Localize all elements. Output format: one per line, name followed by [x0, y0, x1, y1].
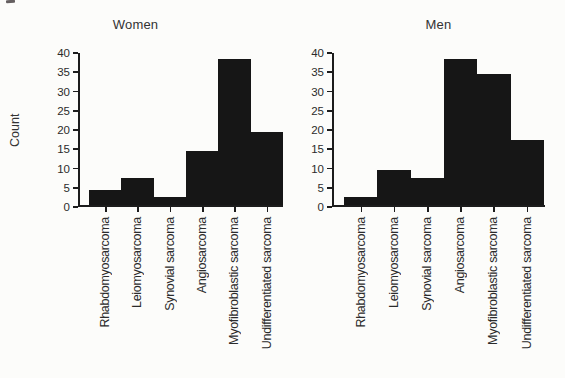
bar-angiosarcoma: [444, 59, 478, 205]
sarcoma-count-figure: Women Count 0510152025303540 Rhabdomyosa…: [0, 0, 565, 378]
y-tick: [73, 91, 78, 93]
x-tick: [202, 207, 204, 212]
bar-rhabdomyosarcoma: [344, 197, 378, 205]
x-tick: [361, 207, 363, 212]
x-category-label: Myofibroblastic sarcoma: [486, 217, 500, 345]
x-category-labels-women: RhabdomyosarcomaLeiomyosarcomaSynovial s…: [89, 217, 283, 369]
y-tick-label: 5: [298, 181, 324, 195]
y-tick: [327, 71, 332, 73]
y-tick-label: 40: [44, 46, 70, 60]
x-tick: [234, 207, 236, 212]
y-tick: [327, 91, 332, 93]
x-category-label: Angiosarcoma: [453, 217, 467, 293]
y-tick: [327, 168, 332, 170]
x-tick: [267, 207, 269, 212]
y-tick: [327, 206, 332, 208]
bar-undifferentiated-sarcoma: [510, 140, 544, 205]
y-tick-label: 25: [298, 104, 324, 118]
bar-angiosarcoma: [186, 151, 219, 205]
y-tick: [73, 129, 78, 131]
y-tick: [327, 110, 332, 112]
y-tick: [327, 52, 332, 54]
bar-leiomyosarcoma: [377, 170, 411, 205]
bar-synovial-sarcoma: [410, 178, 444, 205]
x-category-label: Myofibroblastic sarcoma: [227, 217, 241, 345]
plot-area-men: 0510152025303540: [332, 53, 545, 207]
x-category-label: Synovial sarcoma: [163, 217, 177, 311]
plot-area-women: 0510152025303540: [78, 53, 283, 207]
y-tick: [73, 206, 78, 208]
y-tick-label: 40: [298, 46, 324, 60]
x-category-label: Undifferentiated sarcoma: [260, 217, 274, 349]
x-category-label: Rhabdomyosarcoma: [354, 217, 368, 328]
bar-synovial-sarcoma: [154, 197, 187, 205]
y-tick-label: 35: [44, 65, 70, 79]
y-tick-label: 10: [298, 162, 324, 176]
y-tick-label: 30: [298, 85, 324, 99]
chart-title-men: Men: [332, 17, 545, 32]
bar-leiomyosarcoma: [121, 178, 154, 205]
chart-title-women: Women: [78, 17, 193, 32]
y-tick-label: 30: [44, 85, 70, 99]
x-tick: [527, 207, 529, 212]
x-tick: [137, 207, 139, 212]
y-tick-label: 15: [44, 142, 70, 156]
y-tick-label: 5: [44, 181, 70, 195]
x-category-label: Leiomyosarcoma: [387, 217, 401, 308]
x-tick: [170, 207, 172, 212]
y-tick-label: 0: [44, 200, 70, 214]
y-tick-label: 10: [44, 162, 70, 176]
y-tick-label: 0: [298, 200, 324, 214]
y-tick-label: 35: [298, 65, 324, 79]
y-tick: [73, 110, 78, 112]
scan-artifact: [6, 0, 15, 3]
bar-myofibroblastic-sarcoma: [218, 59, 251, 205]
x-category-label: Undifferentiated sarcoma: [520, 217, 534, 349]
y-tick-label: 20: [298, 123, 324, 137]
y-tick: [73, 168, 78, 170]
x-tick: [493, 207, 495, 212]
y-tick-label: 20: [44, 123, 70, 137]
y-tick-label: 25: [44, 104, 70, 118]
bar-myofibroblastic-sarcoma: [477, 74, 511, 205]
x-category-labels-men: RhabdomyosarcomaLeiomyosarcomaSynovial s…: [344, 217, 543, 369]
y-tick: [327, 129, 332, 131]
x-category-label: Rhabdomyosarcoma: [98, 217, 112, 328]
y-tick: [73, 52, 78, 54]
bar-undifferentiated-sarcoma: [251, 132, 284, 205]
y-axis-label-count: Count: [6, 53, 24, 207]
y-tick: [73, 71, 78, 73]
bar-rhabdomyosarcoma: [89, 190, 122, 205]
y-tick: [327, 187, 332, 189]
y-tick: [73, 148, 78, 150]
y-tick-label: 15: [298, 142, 324, 156]
x-category-label: Angiosarcoma: [195, 217, 209, 293]
y-tick: [327, 148, 332, 150]
x-tick: [460, 207, 462, 212]
y-tick: [73, 187, 78, 189]
x-tick: [394, 207, 396, 212]
x-category-label: Synovial sarcoma: [420, 217, 434, 311]
x-tick: [105, 207, 107, 212]
x-category-label: Leiomyosarcoma: [130, 217, 144, 308]
x-tick: [427, 207, 429, 212]
